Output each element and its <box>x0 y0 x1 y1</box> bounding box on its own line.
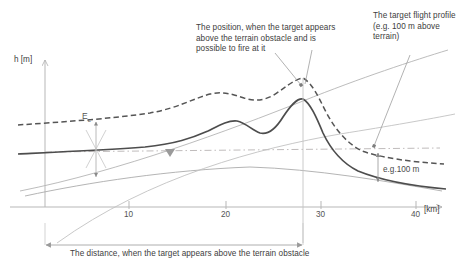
height-callout-label: e.g.100 m <box>383 165 419 174</box>
x-tick-label-10: 10 <box>124 210 133 219</box>
axis-group <box>10 60 442 209</box>
ground-ray <box>57 114 455 243</box>
terrain-arrow-marker <box>165 149 175 157</box>
diagram-canvas: The position, when the target appears ab… <box>0 0 466 276</box>
x-tick-label-20: 20 <box>221 210 230 219</box>
x-tick-label-40: 40 <box>411 210 420 219</box>
annotation-fire-position: The position, when the target appears ab… <box>196 23 346 55</box>
y-axis-label: h [m] <box>14 55 32 64</box>
distance-measure <box>45 223 303 245</box>
clearance-label: Ec <box>82 111 91 123</box>
clearance-label-subscript: c <box>88 117 91 123</box>
launcher-sight-lower <box>25 167 442 196</box>
x-tick-label-30: 30 <box>316 210 325 219</box>
annotation-flight-profile: The target flight profile (e.g. 100 m ab… <box>373 11 463 43</box>
x-axis-unit-label: [km] <box>424 205 439 214</box>
profile-annotation-leader <box>374 55 410 146</box>
caption-distance: The distance, when the target appears ab… <box>70 249 400 260</box>
